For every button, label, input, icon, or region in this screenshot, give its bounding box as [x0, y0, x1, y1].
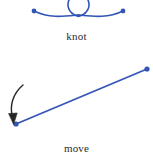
- knot-endpoint-dot-left: [32, 9, 37, 14]
- figure-root: knot move: [0, 0, 153, 159]
- move-caption: move: [0, 142, 153, 154]
- knot-loop-curve: [68, 0, 89, 13]
- diagram-canvas: [0, 0, 153, 159]
- knot-caption: knot: [0, 30, 153, 42]
- move-segment: [16, 69, 147, 124]
- knot-panel: [32, 0, 126, 16]
- move-panel: [9, 66, 150, 126]
- knot-arc-curve: [34, 11, 123, 16]
- knot-endpoint-dot-right: [121, 9, 126, 14]
- move-endpoint-dot-right: [144, 66, 149, 71]
- move-arrow-shaft: [11, 85, 23, 117]
